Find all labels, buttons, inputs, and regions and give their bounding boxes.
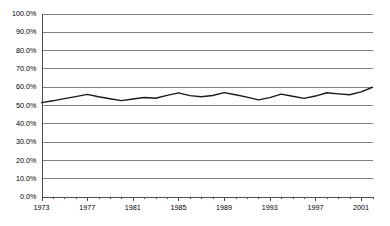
- gridlines-group: [42, 15, 373, 198]
- data-series-group: [42, 87, 373, 102]
- x-tick-label: 1989: [216, 203, 232, 212]
- y-tick-label: 10.0%: [16, 174, 37, 183]
- x-tick-label: 1985: [170, 203, 186, 212]
- y-tick-label: 0.0%: [20, 192, 37, 201]
- y-tick-label: 20.0%: [16, 156, 37, 165]
- y-tick-label: 70.0%: [16, 64, 37, 73]
- x-tick-label: 1973: [34, 203, 50, 212]
- y-tick-label: 80.0%: [16, 46, 37, 55]
- x-tick-label: 1993: [262, 203, 278, 212]
- y-tick-label: 100.0%: [12, 9, 37, 18]
- y-tick-label: 90.0%: [16, 27, 37, 36]
- x-tick-label: 1981: [125, 203, 141, 212]
- x-axis-tick-labels: 19731977198119851989199319972001: [34, 203, 370, 212]
- y-tick-label: 40.0%: [16, 119, 37, 128]
- y-axis-tick-labels: 100.0%90.0%80.0%70.0%60.0%50.0%40.0%30.0…: [12, 9, 37, 201]
- series-line-1: [42, 87, 373, 102]
- y-tick-label: 50.0%: [16, 101, 37, 110]
- x-tick-label: 1997: [307, 203, 323, 212]
- x-tick-label: 2001: [353, 203, 369, 212]
- y-tick-label: 30.0%: [16, 137, 37, 146]
- line-chart: 100.0%90.0%80.0%70.0%60.0%50.0%40.0%30.0…: [0, 0, 390, 226]
- chart-canvas: 100.0%90.0%80.0%70.0%60.0%50.0%40.0%30.0…: [0, 0, 390, 226]
- x-tick-label: 1977: [79, 203, 95, 212]
- y-tick-label: 60.0%: [16, 82, 37, 91]
